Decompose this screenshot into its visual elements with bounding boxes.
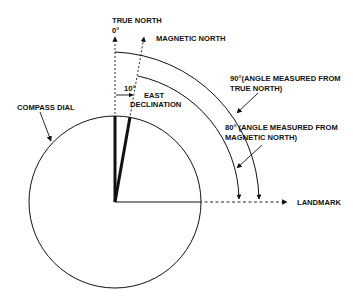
true-angle-label-line2: TRUE NORTH) [230, 84, 283, 93]
magnetic-angle-label-line1: 80° (ANGLE MEASURED FROM [225, 123, 338, 132]
true-angle-label-line1: 90°(ANGLE MEASURED FROM [230, 74, 341, 83]
east-declination-label-line1: EAST [144, 91, 165, 100]
compass-dial-pointer [40, 112, 51, 141]
arc-90-pointer [237, 93, 258, 113]
magnetic-north-needle [115, 117, 130, 202]
true-north-degree-label: 0° [112, 26, 119, 35]
magnetic-north-label: MAGNETIC NORTH [156, 34, 226, 43]
declination-angle-label: 10° [124, 84, 135, 93]
true-north-label: TRUE NORTH [112, 16, 162, 25]
magnetic-angle-label-line2: MAGNETIC NORTH) [225, 133, 298, 142]
landmark-label: LANDMARK [297, 198, 341, 207]
east-declination-label-line2: DECLINATION [130, 100, 181, 109]
compass-diagram: TRUE NORTH 0° MAGNETIC NORTH 10° EAST DE… [0, 0, 353, 303]
compass-dial-label: COMPASS DIAL [17, 103, 75, 112]
